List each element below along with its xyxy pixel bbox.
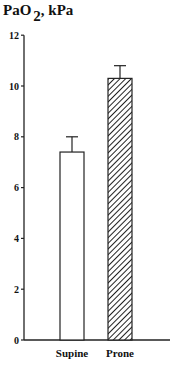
bar-prone <box>108 78 132 340</box>
y-tick-label: 2 <box>14 284 19 295</box>
y-tick-label: 6 <box>14 182 19 193</box>
y-tick-label: 4 <box>14 233 19 244</box>
category-labels: SupineProne <box>56 347 134 359</box>
y-tick-label: 0 <box>14 335 19 346</box>
bars <box>60 66 132 340</box>
bar-supine <box>60 152 84 340</box>
bar-chart: 024681012 SupineProne <box>0 0 182 367</box>
x-category-label: Prone <box>106 347 134 359</box>
x-category-label: Supine <box>56 347 89 359</box>
y-tick-label: 8 <box>14 131 19 142</box>
y-tick-label: 10 <box>9 81 19 92</box>
y-tick-label: 12 <box>9 30 19 41</box>
axes: 024681012 <box>9 30 170 346</box>
